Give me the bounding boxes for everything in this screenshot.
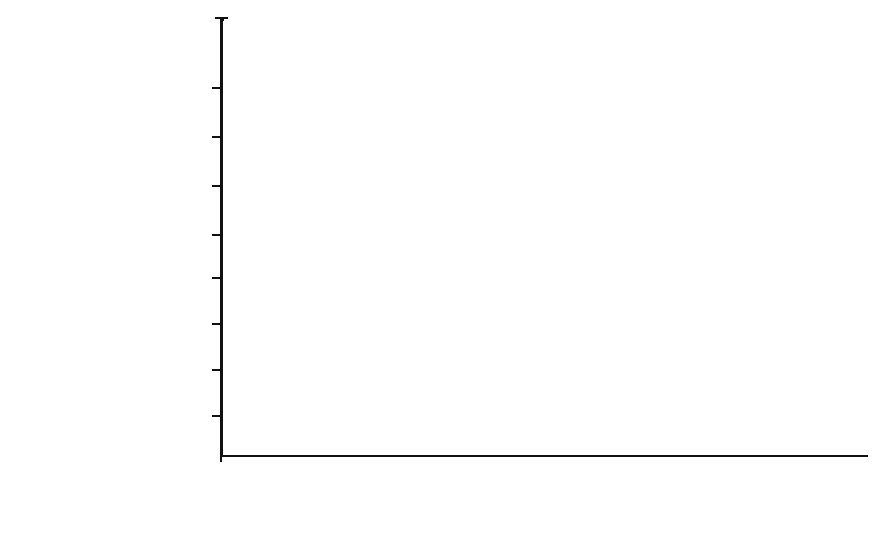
y-axis-tick: [212, 369, 221, 371]
plot-area: [220, 17, 870, 457]
y-axis-tick: [212, 136, 221, 138]
x-axis-tick: [220, 450, 222, 462]
x-axis-line: [220, 455, 868, 457]
bar-other: [220, 17, 224, 21]
horizontal-bar-chart: [0, 0, 890, 543]
y-axis-tick: [212, 185, 221, 187]
y-axis-tick: [212, 234, 221, 236]
y-axis-tick: [212, 323, 221, 325]
y-axis-tick: [212, 415, 221, 417]
y-axis-tick: [212, 87, 221, 89]
y-axis-tick: [212, 277, 221, 279]
y-axis-line: [220, 17, 223, 455]
